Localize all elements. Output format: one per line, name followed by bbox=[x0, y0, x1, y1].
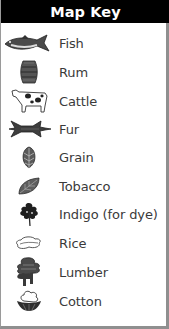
fish-icon bbox=[1, 29, 57, 57]
rice-icon bbox=[1, 229, 57, 257]
indigo-plant-icon bbox=[1, 200, 57, 228]
map-key-item-indigo: Indigo (for dye) bbox=[1, 200, 167, 228]
map-key-label: Lumber bbox=[59, 265, 108, 280]
map-key-label: Rice bbox=[59, 236, 86, 251]
map-key-item-grain: Grain bbox=[1, 143, 167, 171]
map-key-item-fur: Fur bbox=[1, 115, 167, 143]
tobacco-leaf-icon bbox=[1, 172, 57, 200]
map-key-item-rum: Rum bbox=[1, 58, 167, 86]
pelt-icon bbox=[1, 115, 57, 143]
cow-icon bbox=[1, 87, 57, 115]
map-key-item-rice: Rice bbox=[1, 229, 167, 257]
map-key-item-lumber: Lumber bbox=[1, 258, 167, 286]
map-key-label: Indigo (for dye) bbox=[59, 207, 158, 222]
map-key-label: Grain bbox=[59, 150, 94, 165]
tree-icon bbox=[1, 258, 57, 286]
map-key: Map Key Fish Rum bbox=[0, 0, 169, 329]
barrel-icon bbox=[1, 58, 57, 86]
wheat-icon bbox=[1, 143, 57, 171]
map-key-item-fish: Fish bbox=[1, 29, 167, 57]
map-key-label: Fish bbox=[59, 36, 84, 51]
map-key-label: Fur bbox=[59, 122, 79, 137]
map-key-item-tobacco: Tobacco bbox=[1, 172, 167, 200]
map-key-label: Cotton bbox=[59, 294, 102, 309]
map-key-item-cotton: Cotton bbox=[1, 287, 167, 315]
map-key-label: Rum bbox=[59, 65, 88, 80]
map-key-label: Cattle bbox=[59, 94, 97, 109]
map-key-item-cattle: Cattle bbox=[1, 87, 167, 115]
map-key-title: Map Key bbox=[1, 0, 169, 23]
map-key-label: Tobacco bbox=[59, 179, 110, 194]
cotton-boll-icon bbox=[1, 287, 57, 315]
